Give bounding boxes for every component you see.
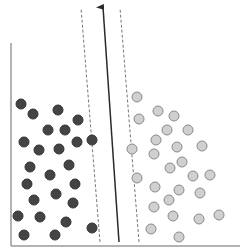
class-a-point <box>34 145 44 155</box>
class-b-point <box>132 173 142 183</box>
class-a-point <box>87 135 97 145</box>
class-b-point <box>205 170 215 180</box>
class-a-point <box>43 125 53 135</box>
class-b-point <box>146 224 156 234</box>
class-a-point <box>70 179 80 189</box>
class-a-point <box>72 137 82 147</box>
class-b-point <box>172 142 182 152</box>
class-b-point <box>149 149 159 159</box>
class-b-point <box>162 125 172 135</box>
class-b-point <box>150 182 160 192</box>
class-b-point <box>132 92 142 102</box>
margin-line-left <box>81 8 100 242</box>
class-b-point <box>169 111 179 121</box>
class-b-point <box>194 214 204 224</box>
class-b-point <box>149 202 159 212</box>
class-b-point <box>153 106 163 116</box>
class-b-point <box>188 171 198 181</box>
class-a-point <box>61 217 71 227</box>
class-b-point <box>168 211 178 221</box>
class-b-point <box>165 163 175 173</box>
class-a-point <box>54 144 64 154</box>
class-b-point <box>151 135 161 145</box>
class-a-point <box>60 125 70 135</box>
diagram-svg <box>0 0 244 252</box>
class-a-points <box>13 99 97 240</box>
class-a-point <box>25 162 35 172</box>
class-a-point <box>29 195 39 205</box>
margin-line-right <box>120 8 139 242</box>
class-a-point <box>19 137 29 147</box>
class-a-point <box>64 160 74 170</box>
class-a-point <box>87 223 97 233</box>
class-a-point <box>19 230 29 240</box>
class-a-point <box>13 211 23 221</box>
class-a-point <box>45 170 55 180</box>
hyperplane-arrow <box>103 7 119 242</box>
class-b-point <box>197 141 207 151</box>
class-a-point <box>68 198 78 208</box>
class-b-points <box>127 92 224 242</box>
class-a-point <box>35 212 45 222</box>
class-b-point <box>214 210 224 220</box>
class-a-point <box>50 230 60 240</box>
class-a-point <box>16 99 26 109</box>
class-a-point <box>73 115 83 125</box>
class-b-point <box>127 144 137 154</box>
class-b-point <box>134 114 144 124</box>
svm-diagram <box>0 0 244 252</box>
class-b-point <box>195 188 205 198</box>
class-b-point <box>164 195 174 205</box>
class-b-point <box>183 125 193 135</box>
class-a-point <box>22 179 32 189</box>
class-b-point <box>177 157 187 167</box>
class-a-point <box>53 105 63 115</box>
class-b-point <box>174 185 184 195</box>
class-a-point <box>51 189 61 199</box>
class-a-point <box>28 109 38 119</box>
class-b-point <box>174 232 184 242</box>
